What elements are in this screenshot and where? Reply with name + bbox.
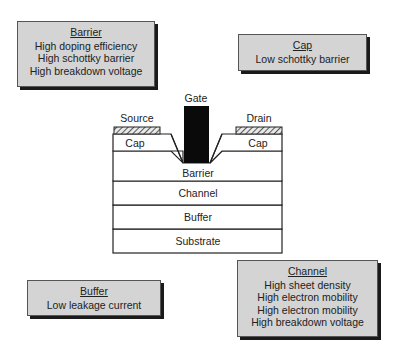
channel-layer-label: Channel <box>178 187 217 199</box>
hemt-cross-section: Gate Source Drain Cap Cap Barrier Channe… <box>0 0 400 356</box>
cap-right-label: Cap <box>248 137 267 149</box>
gate-electrode <box>184 106 209 163</box>
buffer-layer-label: Buffer <box>184 211 212 223</box>
gate-label: Gate <box>185 92 208 104</box>
cap-left-label: Cap <box>125 137 144 149</box>
drain-contact <box>236 127 282 134</box>
source-contact <box>114 127 160 134</box>
barrier-layer-label: Barrier <box>182 167 214 179</box>
drain-label: Drain <box>246 112 271 124</box>
source-label: Source <box>120 112 153 124</box>
substrate-layer-label: Substrate <box>176 235 221 247</box>
